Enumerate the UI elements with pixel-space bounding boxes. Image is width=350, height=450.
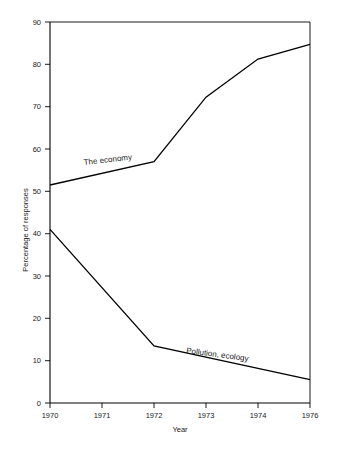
y-tick-label: 70 [33,102,41,111]
series-line-pollution-ecology [50,229,310,379]
x-tick-label: 1974 [250,411,267,420]
series-label-the-economy: The economy [83,153,132,167]
y-tick-label: 60 [33,145,41,154]
y-tick-label: 0 [37,399,41,408]
y-tick-label: 30 [33,272,41,281]
x-axis-title: Year [172,425,188,434]
plot-frame [50,22,310,403]
y-tick-label: 80 [33,60,41,69]
x-tick-label: 1976 [302,411,319,420]
y-tick-label: 50 [33,187,41,196]
x-tick-label: 1972 [146,411,163,420]
line-chart-figure: 0 10 20 30 40 50 60 70 80 90 1970 1971 1… [0,0,350,450]
x-tick-label: 1970 [42,411,59,420]
y-tick-label: 40 [33,229,41,238]
y-axis-ticks [45,22,50,403]
x-axis-ticks [50,403,310,408]
y-tick-label: 90 [33,18,41,27]
series-label-pollution-ecology: Pollution, ecology [186,346,249,363]
x-tick-label: 1973 [198,411,215,420]
y-tick-label: 20 [33,314,41,323]
y-axis-tick-labels: 0 10 20 30 40 50 60 70 80 90 [33,18,41,408]
y-tick-label: 10 [33,356,41,365]
x-tick-label: 1971 [94,411,111,420]
y-axis-title: Percentage of responses [21,188,30,272]
x-axis-tick-labels: 1970 1971 1972 1973 1974 1976 [42,411,319,420]
